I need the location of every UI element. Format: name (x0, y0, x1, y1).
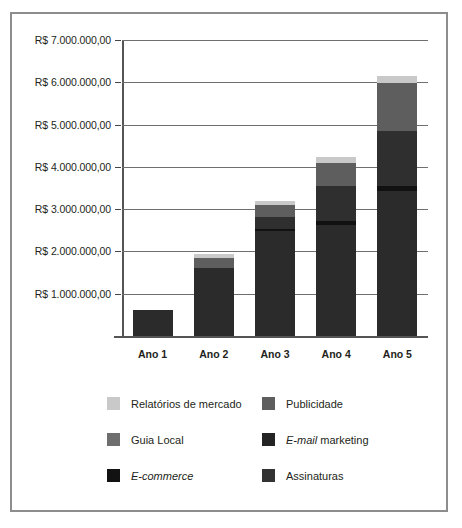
y-tick-mark (115, 82, 121, 83)
y-tick-mark (115, 209, 121, 210)
legend-item-assinaturas: Assinaturas (262, 469, 417, 482)
x-axis-tick-label: Ano 1 (118, 348, 188, 360)
bar-segment (377, 83, 417, 131)
bar-segment (316, 163, 356, 186)
y-axis-tick-label: R$ 6.000.000,00 (35, 76, 111, 88)
legend-swatch (107, 433, 120, 446)
y-axis-tick-label: R$ 2.000.000,00 (35, 245, 111, 257)
y-axis-tick-label: R$ 7.000.000,00 (35, 34, 111, 46)
legend-item-e-commerce: E-commerce (107, 469, 262, 482)
bar-ano-1 (133, 310, 173, 336)
legend-swatch (262, 397, 275, 410)
y-tick-mark (115, 294, 121, 295)
legend-row: Guia LocalE-mail marketing (107, 433, 417, 469)
legend-label: Assinaturas (286, 470, 343, 482)
y-axis-tick-label: R$ 5.000.000,00 (35, 119, 111, 131)
y-tick-mark (115, 167, 121, 168)
bar-segment (194, 268, 234, 337)
x-axis-tick-label: Ano 4 (301, 348, 371, 360)
x-axis-tick-label: Ano 2 (179, 348, 249, 360)
legend-swatch (262, 469, 275, 482)
x-axis-line (114, 336, 428, 338)
bar-segment (377, 76, 417, 84)
legend-item-guia-local: Guia Local (107, 433, 262, 446)
legend-swatch (262, 433, 275, 446)
y-tick-mark (115, 251, 121, 252)
bar-ano-4 (316, 157, 356, 336)
legend-label: Guia Local (131, 434, 184, 446)
y-axis-tick-label: R$ 1.000.000,00 (35, 288, 111, 300)
x-axis-tick-label: Ano 5 (362, 348, 432, 360)
legend-swatch (107, 397, 120, 410)
chart-legend: Relatórios de mercadoPublicidadeGuia Loc… (107, 397, 417, 505)
chart-figure: R$ 1.000.000,00R$ 2.000.000,00R$ 3.000.0… (10, 12, 448, 512)
bar-ano-5 (377, 76, 417, 336)
legend-label: E-mail marketing (286, 434, 369, 446)
bar-segment (255, 231, 295, 336)
legend-label: E-commerce (131, 470, 193, 482)
bar-segment (133, 310, 173, 336)
x-axis-tick-label: Ano 3 (240, 348, 310, 360)
legend-swatch (107, 469, 120, 482)
legend-item-relat-rios-de-mercado: Relatórios de mercado (107, 397, 262, 410)
y-tick-mark (115, 125, 121, 126)
y-tick-mark (115, 40, 121, 41)
gridline (122, 40, 428, 41)
y-axis-tick-label: R$ 4.000.000,00 (35, 161, 111, 173)
bar-segment (255, 205, 295, 216)
legend-label: Publicidade (286, 398, 343, 410)
bar-segment (194, 258, 234, 268)
bar-segment (255, 217, 295, 229)
legend-row: E-commerceAssinaturas (107, 469, 417, 505)
y-axis-line (122, 40, 124, 336)
bar-segment (377, 131, 417, 186)
bar-ano-2 (194, 254, 234, 336)
bar-segment (377, 191, 417, 336)
bar-segment (316, 225, 356, 336)
legend-item-publicidade: Publicidade (262, 397, 417, 410)
legend-item-e-mail-marketing: E-mail marketing (262, 433, 417, 446)
bar-ano-3 (255, 201, 295, 336)
y-axis-tick-label: R$ 3.000.000,00 (35, 203, 111, 215)
plot-area: R$ 1.000.000,00R$ 2.000.000,00R$ 3.000.0… (122, 40, 428, 336)
bar-segment (316, 186, 356, 222)
legend-row: Relatórios de mercadoPublicidade (107, 397, 417, 433)
legend-label: Relatórios de mercado (131, 398, 242, 410)
